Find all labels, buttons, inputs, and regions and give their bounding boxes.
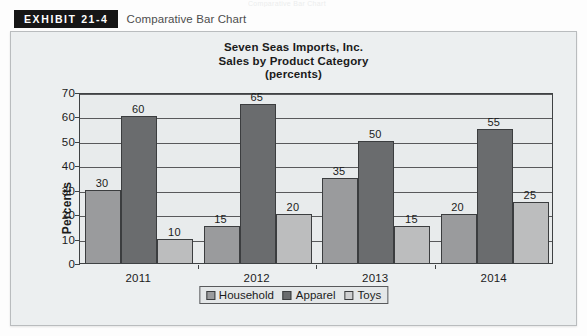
bar-value-label: 65	[239, 91, 275, 103]
bar-apparel-2011	[121, 116, 157, 263]
legend-item-toys[interactable]: Toys	[344, 289, 381, 301]
chart-legend: HouseholdApparelToys	[199, 286, 388, 304]
x-tick-mark	[198, 265, 199, 269]
bar-apparel-2012	[240, 104, 276, 263]
bar-value-label: 30	[84, 177, 120, 189]
bar-household-2012	[204, 226, 240, 263]
bar-toys-2011	[157, 239, 193, 263]
y-tick-label: 40	[45, 160, 75, 172]
bar-toys-2012	[276, 214, 312, 263]
bar-value-label: 35	[321, 165, 357, 177]
top-cutoff-text: Comparative Bar Chart	[248, 0, 408, 7]
legend-item-apparel[interactable]: Apparel	[283, 289, 336, 301]
y-tick-label: 0	[45, 258, 75, 270]
legend-swatch-icon	[283, 291, 292, 300]
exhibit-page: Comparative Bar Chart EXHIBIT 21-4 Compa…	[0, 0, 587, 336]
bar-value-label: 55	[476, 116, 512, 128]
bar-household-2014	[441, 214, 477, 263]
chart-title-line-1: Seven Seas Imports, Inc.	[11, 41, 576, 55]
y-tick-label: 50	[45, 136, 75, 148]
legend-item-household[interactable]: Household	[206, 289, 274, 301]
bar-apparel-2014	[477, 129, 513, 263]
bar-value-label: 10	[156, 226, 192, 238]
x-tick-label: 2014	[481, 272, 507, 284]
bar-value-label: 20	[440, 201, 476, 213]
x-tick-label: 2013	[362, 272, 388, 284]
legend-label: Apparel	[296, 289, 336, 301]
x-tick-label: 2011	[125, 272, 151, 284]
x-tick-mark	[435, 265, 436, 269]
bar-value-label: 15	[393, 213, 429, 225]
bar-value-label: 20	[275, 201, 311, 213]
bar-household-2011	[85, 190, 121, 263]
bar-value-label: 50	[357, 128, 393, 140]
x-axis: 2011201220132014	[79, 265, 553, 287]
y-tick-label: 10	[45, 234, 75, 246]
legend-swatch-icon	[206, 291, 215, 300]
bar-value-label: 15	[203, 213, 239, 225]
legend-label: Household	[219, 289, 274, 301]
bar-apparel-2013	[358, 141, 394, 263]
y-tick-label: 70	[45, 87, 75, 99]
x-tick-mark	[316, 265, 317, 269]
bar-toys-2013	[394, 226, 430, 263]
bar-toys-2014	[513, 202, 549, 263]
bar-value-label: 25	[512, 189, 548, 201]
y-tick-label: 60	[45, 111, 75, 123]
legend-label: Toys	[357, 289, 381, 301]
exhibit-number-badge: EXHIBIT 21-4	[14, 10, 118, 28]
bar-household-2013	[322, 178, 358, 264]
chart-title: Seven Seas Imports, Inc. Sales by Produc…	[11, 41, 576, 82]
x-tick-label: 2012	[244, 272, 270, 284]
bar-value-label: 60	[120, 103, 156, 115]
y-axis: Percents 010203040506070	[41, 93, 75, 264]
chart-title-line-2: Sales by Product Category	[11, 55, 576, 69]
y-tick-label: 30	[45, 185, 75, 197]
y-tick-label: 20	[45, 209, 75, 221]
legend-swatch-icon	[344, 291, 353, 300]
exhibit-caption: Comparative Bar Chart	[127, 13, 247, 25]
chart-title-line-3: (percents)	[11, 68, 576, 82]
chart-panel: Seven Seas Imports, Inc. Sales by Produc…	[10, 31, 577, 326]
exhibit-header: EXHIBIT 21-4 Comparative Bar Chart	[14, 10, 246, 28]
